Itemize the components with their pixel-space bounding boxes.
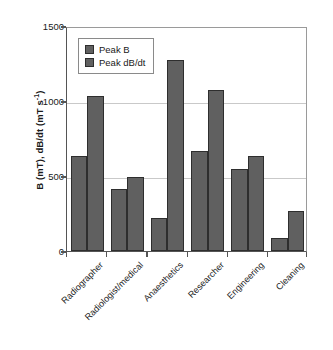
bar-peak-dbdt bbox=[87, 96, 104, 251]
bar-peak-b bbox=[271, 238, 288, 251]
legend-swatch-icon bbox=[85, 58, 94, 67]
x-axis-tick-mark bbox=[227, 252, 228, 257]
y-axis-title: B (mT), dB/dt (mT s-1) bbox=[33, 55, 45, 225]
y-axis-tick-label-1000: 1000 bbox=[4, 97, 64, 107]
bar-peak-b bbox=[231, 169, 248, 251]
x-axis-tick-mark bbox=[306, 252, 307, 257]
bar-peak-b bbox=[111, 189, 128, 251]
bar-peak-dbdt bbox=[127, 177, 144, 251]
legend-label-peak-dbdt: Peak dB/dt bbox=[99, 58, 145, 68]
legend-entry-peak-dbdt: Peak dB/dt bbox=[85, 56, 145, 69]
legend-label-peak-b: Peak B bbox=[99, 45, 130, 55]
legend: Peak B Peak dB/dt bbox=[78, 38, 154, 74]
y-axis-tick-label-0: 0 bbox=[4, 247, 64, 257]
x-axis-label-radiographer: Radiographer bbox=[0, 260, 105, 350]
x-axis-tick-mark bbox=[106, 252, 107, 257]
bar-peak-b bbox=[191, 151, 208, 252]
legend-entry-peak-b: Peak B bbox=[85, 43, 145, 56]
x-axis-tick-mark bbox=[187, 252, 188, 257]
bar-peak-dbdt bbox=[288, 211, 305, 251]
y-axis-tick-label-1500: 1500 bbox=[4, 22, 64, 32]
bar-peak-dbdt bbox=[208, 90, 225, 251]
y-axis-tick-label-500: 500 bbox=[4, 172, 64, 182]
bar-peak-b bbox=[151, 218, 168, 251]
x-axis-tick-mark bbox=[66, 252, 67, 257]
bar-peak-dbdt bbox=[248, 156, 265, 251]
x-axis-tick-mark bbox=[146, 252, 147, 257]
x-axis-tick-mark bbox=[267, 252, 268, 257]
bar-chart-figure: B (mT), dB/dt (mT s-1) 1500 1000 500 0 R… bbox=[0, 0, 333, 350]
legend-swatch-icon bbox=[85, 45, 94, 54]
bar-peak-b bbox=[71, 156, 88, 251]
y-axis-title-tail: ) bbox=[34, 90, 45, 93]
bar-peak-dbdt bbox=[167, 60, 184, 251]
